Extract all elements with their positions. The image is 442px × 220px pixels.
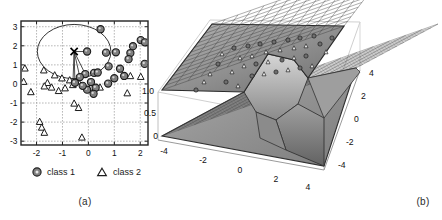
x-tick-label: 2 [138,148,143,158]
surface-marker-class-1 [250,74,254,78]
legend: class 1 class 2 [33,167,141,177]
x-tick-label: 1 [112,148,117,158]
y-tick-label: 2 [13,41,18,51]
x-axis-tick-labels: -2-1012 [33,148,143,158]
data-point-class-1 [94,69,101,76]
caption-panel-b: (b) [338,196,442,207]
surface-marker-class-1 [216,62,220,66]
legend-marker-class-1-highlight [36,171,39,174]
caption-panel-a: (a) [0,196,170,207]
y-tick-label: -2 [10,117,18,127]
x-tick-label-3d: -2 [199,155,207,165]
surface-marker-class-1 [318,42,322,46]
data-point-class-1 [105,63,112,70]
legend-label-class-2: class 2 [113,167,141,177]
z-tick-label: 0 [153,131,158,141]
data-point-class-1 [71,79,78,86]
data-point-class-1 [112,49,119,56]
surface-marker-class-1 [312,34,316,38]
y-tick-label: -3 [10,136,18,146]
x-tick-label-3d: 2 [274,174,279,184]
surface-marker-class-1 [254,62,258,66]
surface-marker-class-1 [258,42,262,46]
x-tick-label-3d: 0 [238,165,243,175]
data-point-class-1 [125,56,132,63]
data-point-class-1 [97,26,104,33]
y-tick-label: 1 [13,60,18,70]
surface-marker-class-1 [232,46,236,50]
x-tick-label-3d: 4 [306,182,311,192]
x-tick-label: -2 [33,148,41,158]
y-axis-tick-labels: 3210-1-2-3 [10,22,18,146]
y-tick-label-3d: -2 [346,137,354,147]
data-point-class-1 [90,90,97,97]
y-tick-label: 0 [13,79,18,89]
data-point-class-1 [111,75,118,82]
y-tick-label-3d: 2 [361,91,366,101]
surface-marker-class-1 [224,80,228,84]
data-point-class-1 [121,72,128,79]
data-point-class-1 [116,65,123,72]
data-point-class-1 [83,48,90,55]
surface-marker-class-1 [304,54,308,58]
y-tick-label-3d: -4 [338,160,346,170]
data-point-class-1 [79,82,86,89]
surface-marker-class-1 [246,44,250,48]
panel-b-surface: 1.00.50 -4-2024 420-2-4 (b) [148,0,381,220]
surface-marker-class-1 [194,88,198,92]
y-tick-label: 3 [13,22,18,32]
surface-marker-class-1 [298,66,302,70]
surface-marker-class-1 [272,40,276,44]
y-tick-label-3d: 0 [354,114,359,124]
surface-marker-class-1 [330,36,334,40]
data-point-class-1 [104,80,111,87]
surface-plot-svg: 1.00.50 -4-2024 420-2-4 [148,0,381,196]
data-point-class-1 [129,43,136,50]
surface-marker-class-1 [286,38,290,42]
x-tick-label: -1 [59,148,67,158]
data-point-class-1 [102,49,109,56]
surface-marker-class-1 [280,58,284,62]
legend-marker-class-2 [98,168,107,175]
y-tick-label: -1 [10,98,18,108]
x-tick-label: 0 [86,148,91,158]
legend-label-class-1: class 1 [47,167,75,177]
z-tick-label: 0.5 [144,108,156,118]
z-tick-label: 1.0 [142,86,154,96]
x-tick-label-3d: -4 [160,146,168,156]
surface-marker-class-1 [298,36,302,40]
surface-marker-class-1 [274,70,278,74]
y-tick-label-3d: 4 [369,68,374,78]
